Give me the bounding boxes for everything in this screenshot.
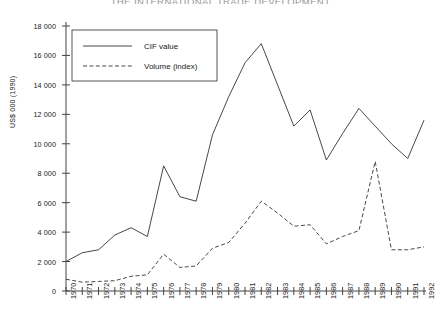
legend-label-cif-value: CIF value	[144, 42, 179, 51]
plot-area: CIF valueVolume (index)	[0, 0, 441, 335]
legend-box	[72, 30, 217, 81]
chart-container: THE INTERNATIONAL TRADE DEVELOPMENT US$ …	[0, 0, 441, 335]
legend-label-volume-index: Volume (index)	[144, 62, 198, 71]
series-line-volume-index	[66, 161, 424, 282]
